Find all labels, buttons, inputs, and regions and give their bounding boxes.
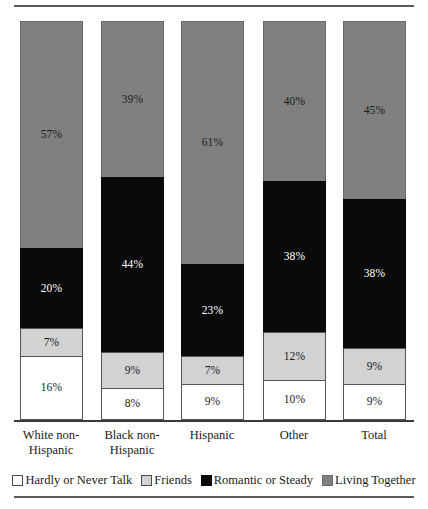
- plot-area: 57% 20% 7% 16% 39% 44% 9% 8%: [0, 21, 428, 420]
- bar-column-other[interactable]: 40% 38% 12% 10%: [263, 21, 326, 420]
- segment-value-label: 9%: [205, 396, 221, 408]
- legend-label: Hardly or Never Talk: [25, 474, 132, 487]
- legend-label: Friends: [154, 474, 192, 487]
- segment-value-label: 7%: [205, 365, 221, 377]
- bottom-rule: [14, 496, 414, 498]
- segment-value-label: 7%: [44, 337, 60, 349]
- stacked-bar-chart-figure: 57% 20% 7% 16% 39% 44% 9% 8%: [0, 0, 428, 509]
- segment-value-label: 8%: [125, 398, 141, 410]
- segment-romantic-or-steady[interactable]: 23%: [181, 264, 244, 356]
- x-axis-label-line2: Hispanic: [5, 443, 97, 458]
- x-axis-label-white-non-hispanic: White non- Hispanic: [5, 428, 97, 458]
- bar-column-hispanic[interactable]: 61% 23% 7% 9%: [181, 21, 244, 420]
- legend-swatch-icon-hardly-or-never-talk: [12, 475, 23, 486]
- bar-column-total[interactable]: 45% 38% 9% 9%: [343, 21, 406, 420]
- x-axis-label-other: Other: [248, 428, 340, 443]
- segment-living-together[interactable]: 45%: [343, 21, 406, 199]
- segment-value-label: 38%: [364, 268, 386, 280]
- bar-column-white-non-hispanic[interactable]: 57% 20% 7% 16%: [20, 21, 83, 420]
- segment-friends[interactable]: 7%: [181, 356, 244, 384]
- segment-value-label: 9%: [125, 365, 141, 377]
- segment-value-label: 38%: [284, 251, 306, 263]
- segment-value-label: 9%: [367, 396, 383, 408]
- segment-value-label: 40%: [284, 96, 306, 108]
- segment-value-label: 12%: [284, 351, 306, 363]
- segment-value-label: 45%: [364, 105, 386, 117]
- legend-label: Romantic or Steady: [214, 474, 313, 487]
- segment-living-together[interactable]: 61%: [181, 21, 244, 264]
- segment-value-label: 9%: [367, 361, 383, 373]
- segment-romantic-or-steady[interactable]: 20%: [20, 248, 83, 328]
- legend-swatch-icon-living-together: [322, 475, 333, 486]
- segment-value-label: 39%: [122, 94, 144, 106]
- top-rule: [14, 5, 414, 7]
- segment-value-label: 23%: [202, 305, 224, 317]
- segment-value-label: 16%: [41, 382, 63, 394]
- x-axis-label-total: Total: [328, 428, 420, 443]
- segment-hardly-or-never-talk[interactable]: 10%: [263, 380, 326, 420]
- x-axis-label-hispanic: Hispanic: [166, 428, 258, 443]
- segment-value-label: 20%: [41, 283, 63, 295]
- x-axis-label-line1: Hispanic: [166, 428, 258, 443]
- legend-item-friends[interactable]: Friends: [141, 474, 192, 487]
- legend-label: Living Together: [335, 474, 415, 487]
- bar-column-black-non-hispanic[interactable]: 39% 44% 9% 8%: [101, 21, 164, 420]
- segment-living-together[interactable]: 39%: [101, 21, 164, 177]
- segment-hardly-or-never-talk[interactable]: 9%: [181, 384, 244, 420]
- segment-friends[interactable]: 9%: [343, 348, 406, 384]
- chart-legend: Hardly or Never Talk Friends Romantic or…: [14, 470, 414, 490]
- segment-value-label: 61%: [202, 137, 224, 149]
- legend-swatch-icon-friends: [141, 475, 152, 486]
- x-axis-line: [14, 420, 414, 422]
- legend-item-hardly-or-never-talk[interactable]: Hardly or Never Talk: [12, 474, 132, 487]
- x-axis-label-line1: White non-: [5, 428, 97, 443]
- segment-friends[interactable]: 7%: [20, 328, 83, 356]
- segment-friends[interactable]: 12%: [263, 332, 326, 380]
- legend-item-living-together[interactable]: Living Together: [322, 474, 415, 487]
- x-axis-label-line2: Hispanic: [86, 443, 178, 458]
- segment-living-together[interactable]: 40%: [263, 21, 326, 181]
- segment-hardly-or-never-talk[interactable]: 8%: [101, 388, 164, 420]
- segment-romantic-or-steady[interactable]: 44%: [101, 177, 164, 353]
- x-axis-label-line1: Other: [248, 428, 340, 443]
- segment-romantic-or-steady[interactable]: 38%: [343, 199, 406, 349]
- segment-value-label: 44%: [122, 259, 144, 271]
- segment-romantic-or-steady[interactable]: 38%: [263, 181, 326, 333]
- segment-hardly-or-never-talk[interactable]: 16%: [20, 356, 83, 420]
- segment-friends[interactable]: 9%: [101, 352, 164, 388]
- segment-value-label: 10%: [284, 394, 306, 406]
- segment-hardly-or-never-talk[interactable]: 9%: [343, 384, 406, 420]
- segment-living-together[interactable]: 57%: [20, 21, 83, 248]
- segment-value-label: 57%: [41, 129, 63, 141]
- x-axis-label-line1: Total: [328, 428, 420, 443]
- x-axis-label-black-non-hispanic: Black non- Hispanic: [86, 428, 178, 458]
- x-axis-label-line1: Black non-: [86, 428, 178, 443]
- legend-item-romantic-or-steady[interactable]: Romantic or Steady: [201, 474, 313, 487]
- legend-swatch-icon-romantic-or-steady: [201, 475, 212, 486]
